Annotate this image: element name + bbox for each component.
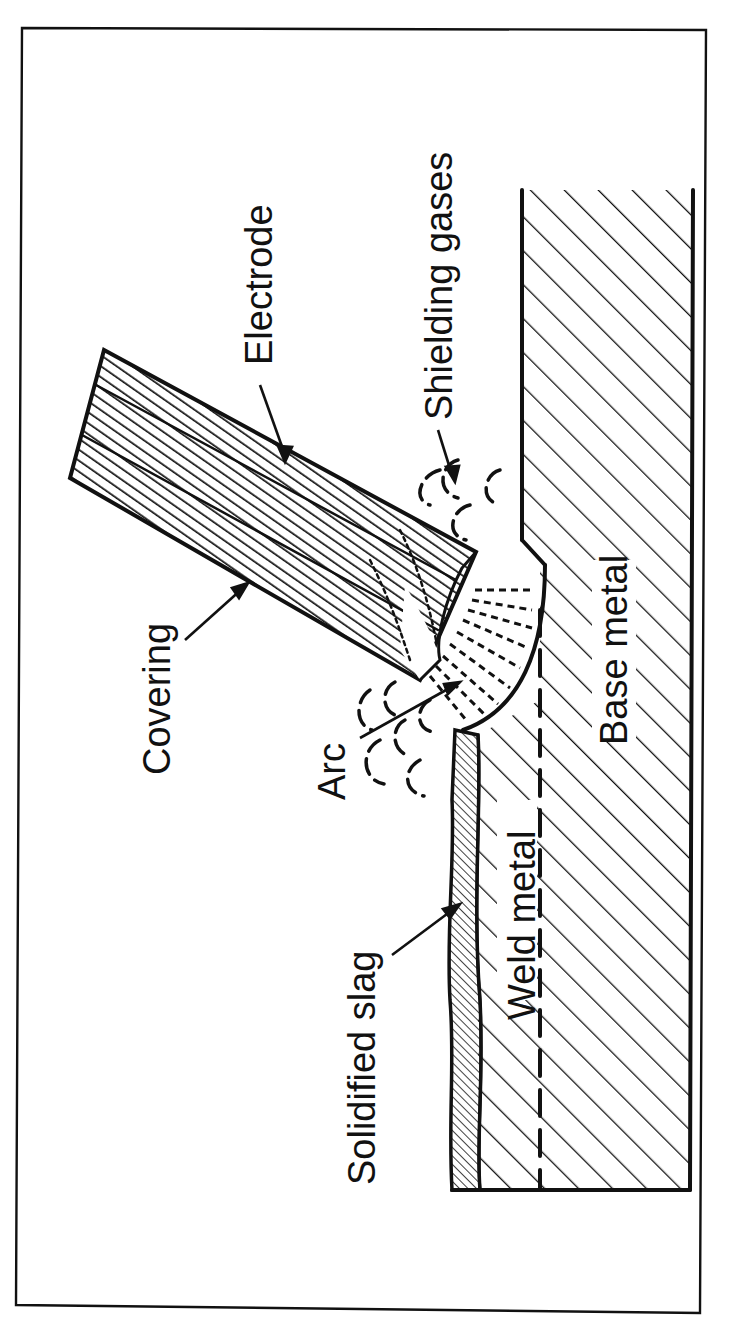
- label-weld-metal: Weld metal: [501, 831, 543, 1020]
- label-solidified-slag: Solidified slag: [341, 951, 383, 1185]
- solidified-slag: [449, 730, 481, 1190]
- smaw-diagram: Electrode Shielding gases Covering Arc B…: [0, 0, 736, 1343]
- label-covering: Covering: [136, 623, 178, 775]
- electrode: [70, 350, 476, 680]
- label-base-metal: Base metal: [593, 555, 635, 745]
- label-shielding-gases: Shielding gases: [418, 152, 460, 420]
- label-arc: Arc: [311, 743, 353, 800]
- label-electrode: Electrode: [238, 204, 280, 365]
